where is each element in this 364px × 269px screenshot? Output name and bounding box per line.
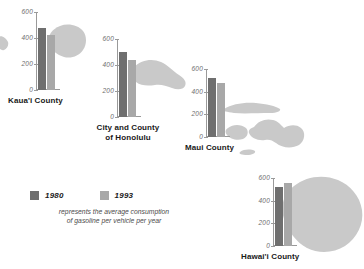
y-ticklabel-maui-0: 0 bbox=[199, 134, 203, 141]
y-ticklabel-honolulu-400: 400 bbox=[103, 62, 114, 69]
county-label-honolulu-line1: City and County bbox=[97, 123, 160, 132]
y-ticklabel-kauai-400: 400 bbox=[22, 35, 33, 42]
bar-group-hawaii bbox=[275, 178, 292, 246]
legend-label-1993: 1993 bbox=[115, 191, 134, 200]
legend-caption-line1: represents the average consumption bbox=[59, 208, 169, 215]
plot-area-honolulu: 600 400 200 0 bbox=[117, 39, 139, 117]
legend-row: 1980 1993 bbox=[30, 191, 196, 200]
bar-kauai-1993 bbox=[47, 35, 55, 90]
legend-caption: represents the average consumption of ga… bbox=[32, 208, 196, 225]
bar-hawaii-1980 bbox=[275, 187, 283, 246]
legend-swatch-1980-icon bbox=[30, 191, 39, 200]
county-label-maui: Maui County bbox=[185, 143, 234, 153]
y-ticklabel-kauai-200: 200 bbox=[22, 61, 33, 68]
plot-area-hawaii: 600 400 200 0 bbox=[273, 178, 295, 246]
y-tick-maui-0 bbox=[204, 137, 208, 138]
county-label-honolulu-line2: of Honolulu bbox=[105, 133, 151, 142]
legend-caption-line2: of gasoline per vehicle per year bbox=[67, 217, 161, 224]
y-ticklabel-hawaii-0: 0 bbox=[266, 243, 270, 250]
y-ticklabel-hawaii-200: 200 bbox=[259, 220, 270, 227]
chart-panel-hawaii: 600 400 200 0 Hawai'i County bbox=[273, 178, 295, 246]
y-ticklabel-maui-600: 600 bbox=[192, 66, 203, 73]
chart-panel-honolulu: 600 400 200 0 City and County of Honolul… bbox=[117, 39, 139, 117]
y-axis-maui bbox=[206, 69, 207, 137]
county-label-honolulu: City and County of Honolulu bbox=[78, 123, 178, 142]
chart-panel-kauai: 600 400 200 0 Kaua'i County bbox=[36, 12, 58, 90]
y-ticklabel-maui-400: 400 bbox=[192, 88, 203, 95]
island-kahoolawe bbox=[237, 147, 257, 157]
legend-swatch-1993-icon bbox=[100, 191, 109, 200]
bar-honolulu-1993 bbox=[128, 60, 136, 117]
y-ticklabel-maui-200: 200 bbox=[192, 111, 203, 118]
island-niihau bbox=[0, 33, 18, 55]
chart-panel-maui: 600 400 200 0 Maui County bbox=[206, 69, 228, 137]
bar-kauai-1980 bbox=[38, 28, 46, 90]
legend-item-1993: 1993 bbox=[100, 191, 134, 200]
plot-area-kauai: 600 400 200 0 bbox=[36, 12, 58, 90]
legend-item-1980: 1980 bbox=[30, 191, 64, 200]
bar-hawaii-1993 bbox=[284, 183, 292, 246]
island-maui bbox=[244, 115, 306, 151]
legend-label-1980: 1980 bbox=[45, 191, 64, 200]
y-ticklabel-kauai-0: 0 bbox=[29, 87, 33, 94]
bar-group-maui bbox=[208, 69, 225, 137]
bar-honolulu-1980 bbox=[119, 52, 127, 117]
y-ticklabel-honolulu-600: 600 bbox=[103, 36, 114, 43]
y-axis-hawaii bbox=[273, 178, 274, 246]
bar-maui-1980 bbox=[208, 78, 216, 137]
county-label-hawaii: Hawai'i County bbox=[241, 252, 299, 262]
bar-group-honolulu bbox=[119, 39, 136, 117]
bar-maui-1993 bbox=[217, 83, 225, 137]
county-label-kauai: Kaua'i County bbox=[8, 96, 63, 106]
y-ticklabel-honolulu-0: 0 bbox=[110, 114, 114, 121]
y-ticklabel-honolulu-200: 200 bbox=[103, 88, 114, 95]
y-tick-honolulu-0 bbox=[115, 117, 119, 118]
y-ticklabel-hawaii-600: 600 bbox=[259, 175, 270, 182]
plot-area-maui: 600 400 200 0 bbox=[206, 69, 228, 137]
gasoline-consumption-infographic: 600 400 200 0 Kaua'i County 600 400 200 bbox=[0, 0, 364, 269]
y-axis-honolulu bbox=[117, 39, 118, 117]
y-tick-kauai-0 bbox=[34, 90, 38, 91]
legend: 1980 1993 represents the average consump… bbox=[30, 191, 196, 225]
y-ticklabel-hawaii-400: 400 bbox=[259, 197, 270, 204]
y-tick-hawaii-0 bbox=[271, 246, 275, 247]
y-ticklabel-kauai-600: 600 bbox=[22, 9, 33, 16]
y-axis-kauai bbox=[36, 12, 37, 90]
island-molokai bbox=[222, 100, 282, 116]
bar-group-kauai bbox=[38, 12, 55, 90]
